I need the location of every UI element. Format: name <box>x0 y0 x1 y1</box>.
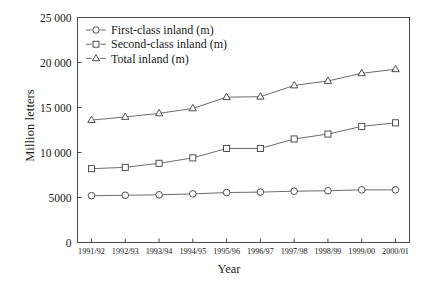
x-tick-label: 1994/95 <box>179 247 206 256</box>
x-tick-label: 1991/92 <box>78 247 105 256</box>
data-point-marker <box>190 191 197 198</box>
chart-legend: First-class inland (m)Second-class inlan… <box>86 23 227 65</box>
y-tick-label: 15 000 <box>40 102 72 114</box>
y-tick-label: 25 000 <box>40 12 72 24</box>
x-tick-label: 1995/96 <box>213 247 240 256</box>
chart-plot-area: 0500010 00015 00020 00025 000 1991/92199… <box>0 0 442 285</box>
data-point-marker <box>358 69 365 75</box>
x-axis-title: Year <box>0 262 442 277</box>
data-point-marker <box>257 145 263 151</box>
y-tick-label: 10 000 <box>40 147 72 159</box>
legend-label: Second-class inland (m) <box>111 37 227 51</box>
x-tick-label: 1996/97 <box>247 247 274 256</box>
y-axis-ticks: 0500010 00015 00020 00025 000 <box>40 12 82 249</box>
data-point-marker <box>223 93 230 99</box>
legend-label: Total inland (m) <box>111 52 189 66</box>
x-tick-label: 1992/93 <box>112 247 139 256</box>
y-axis-title: Million letters <box>23 56 38 196</box>
line-chart-figure: Million letters 0500010 00015 00020 0002… <box>0 0 442 285</box>
data-point-marker <box>88 116 95 122</box>
x-tick-label: 1997/98 <box>281 247 308 256</box>
x-axis-ticks: 1991/921992/931993/941994/951995/961996/… <box>78 239 409 256</box>
series-line <box>92 69 396 120</box>
data-point-marker <box>224 145 230 151</box>
x-axis-title-text: Year <box>201 262 240 276</box>
series-line <box>92 190 396 196</box>
legend-entry: First-class inland (m) <box>86 23 214 37</box>
series-circle <box>88 187 399 200</box>
y-tick-label: 0 <box>66 237 72 249</box>
data-point-marker <box>392 120 398 126</box>
data-point-marker <box>122 113 129 119</box>
legend-marker-square <box>93 41 99 47</box>
series-line <box>92 123 396 169</box>
x-tick-label: 1999/00 <box>348 247 375 256</box>
x-tick-label: 2000/01 <box>382 247 409 256</box>
data-point-marker <box>88 166 94 172</box>
y-tick-label: 5000 <box>49 192 72 204</box>
legend-label: First-class inland (m) <box>111 23 214 37</box>
x-tick-label: 1998/99 <box>315 247 342 256</box>
data-point-marker <box>156 160 162 166</box>
y-tick-label: 20 000 <box>40 57 72 69</box>
data-point-marker <box>122 164 128 170</box>
data-point-marker <box>359 123 365 129</box>
data-point-marker <box>257 189 264 196</box>
legend-marker-triangle <box>92 55 99 61</box>
data-point-marker <box>156 191 163 198</box>
series-square <box>88 120 398 172</box>
legend-entry: Total inland (m) <box>86 52 189 66</box>
data-point-marker <box>223 189 230 196</box>
data-point-marker <box>358 187 365 194</box>
x-tick-label: 1993/94 <box>146 247 173 256</box>
data-point-marker <box>392 187 399 194</box>
data-point-marker <box>291 188 298 195</box>
data-point-marker <box>325 187 332 194</box>
legend-entry: Second-class inland (m) <box>86 37 227 51</box>
data-point-marker <box>88 192 95 199</box>
legend-marker-circle <box>93 27 99 33</box>
data-point-marker <box>392 65 399 71</box>
data-point-marker <box>291 136 297 142</box>
series-triangle <box>88 65 399 122</box>
data-point-marker <box>190 155 196 161</box>
data-point-marker <box>122 192 129 199</box>
data-point-marker <box>325 131 331 137</box>
data-series-layer <box>88 65 399 199</box>
